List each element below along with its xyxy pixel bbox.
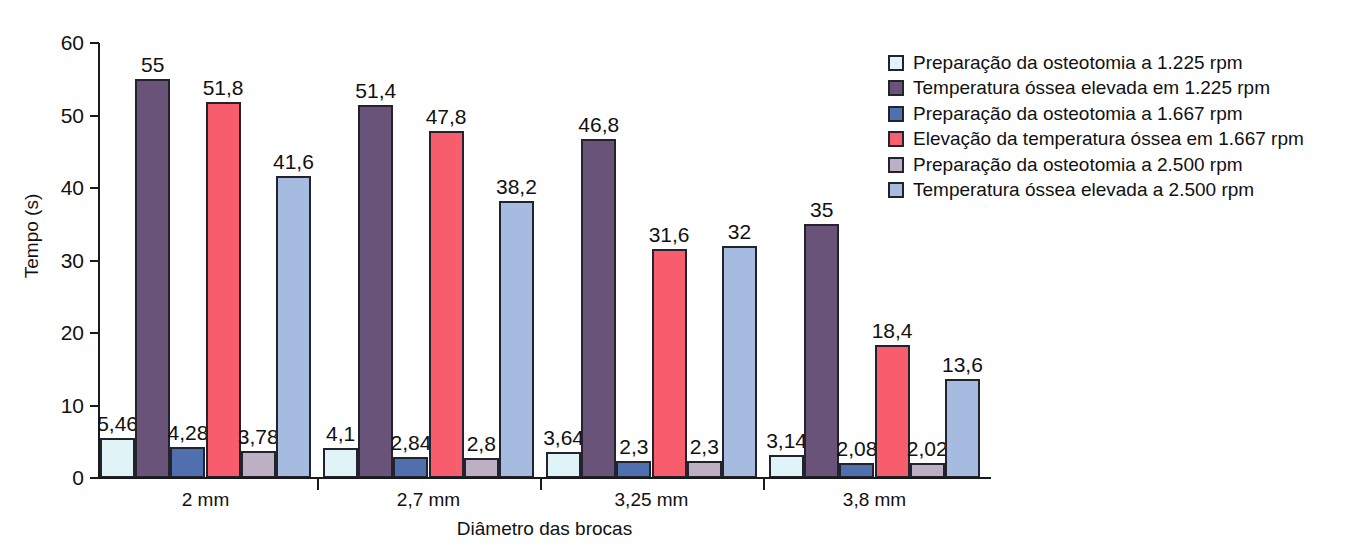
bar[interactable] xyxy=(323,448,358,478)
x-axis-category-label: 2,7 mm xyxy=(359,489,499,511)
y-axis-tick xyxy=(90,115,99,117)
y-axis-tick-label: 40 xyxy=(30,177,84,198)
bar[interactable] xyxy=(616,461,651,478)
legend-swatch-icon xyxy=(888,55,904,71)
bar[interactable] xyxy=(910,463,945,478)
bar-chart: Tempo (s) 0102030405060 5,46554,2851,83,… xyxy=(0,0,1359,546)
legend-item[interactable]: Elevação da temperatura óssea em 1.667 r… xyxy=(888,127,1304,153)
bar[interactable] xyxy=(769,455,804,478)
legend-item-label: Elevação da temperatura óssea em 1.667 r… xyxy=(913,128,1304,150)
y-axis-tick-label: 60 xyxy=(30,32,84,53)
bar[interactable] xyxy=(687,461,722,478)
legend-swatch-icon xyxy=(888,80,904,96)
legend: Preparação da osteotomia a 1.225 rpmTemp… xyxy=(888,50,1304,203)
y-axis-tick-label: 20 xyxy=(30,322,84,343)
bar[interactable] xyxy=(945,379,980,478)
y-axis-tick-label: 50 xyxy=(30,105,84,126)
x-axis-category-label: 3,25 mm xyxy=(582,489,722,511)
legend-swatch-icon xyxy=(888,157,904,173)
legend-item-label: Preparação da osteotomia a 1.667 rpm xyxy=(913,103,1243,125)
bar[interactable] xyxy=(170,447,205,478)
bar-value-label: 31,6 xyxy=(629,224,709,245)
x-axis-separator-tick xyxy=(540,479,542,490)
bar-value-label: 51,8 xyxy=(183,77,263,98)
bar-value-label: 41,6 xyxy=(253,151,333,172)
y-axis-tick xyxy=(90,260,99,262)
y-axis-tick-label: 30 xyxy=(30,250,84,271)
bar[interactable] xyxy=(581,139,616,478)
y-axis-tick xyxy=(90,187,99,189)
legend-item-label: Preparação da osteotomia a 2.500 rpm xyxy=(913,154,1243,176)
bar-value-label: 13,6 xyxy=(922,354,1002,375)
x-axis-separator-tick xyxy=(763,479,765,490)
bar[interactable] xyxy=(546,452,581,478)
bar[interactable] xyxy=(135,79,170,478)
x-axis-separator-tick xyxy=(317,479,319,490)
bar-value-label: 51,4 xyxy=(336,80,416,101)
bar-value-label: 38,2 xyxy=(476,176,556,197)
bar-value-label: 46,8 xyxy=(559,114,639,135)
bar-value-label: 32 xyxy=(699,221,779,242)
legend-item[interactable]: Preparação da osteotomia a 1.225 rpm xyxy=(888,50,1304,76)
bar[interactable] xyxy=(839,463,874,478)
bar[interactable] xyxy=(206,102,241,478)
legend-item[interactable]: Temperatura óssea elevada a 2.500 rpm xyxy=(888,178,1304,204)
legend-item[interactable]: Preparação da osteotomia a 2.500 rpm xyxy=(888,152,1304,178)
y-axis-tick xyxy=(90,42,99,44)
y-axis-tick-label: 0 xyxy=(30,467,84,488)
legend-swatch-icon xyxy=(888,131,904,147)
bar[interactable] xyxy=(464,458,499,478)
y-axis-tick xyxy=(90,405,99,407)
bar[interactable] xyxy=(429,131,464,478)
x-axis-title: Diâmetro das brocas xyxy=(98,518,991,540)
x-axis-category-label: 2 mm xyxy=(136,489,276,511)
y-axis-tick xyxy=(90,332,99,334)
bar-value-label: 55 xyxy=(113,54,193,75)
legend-item[interactable]: Temperatura óssea elevada em 1.225 rpm xyxy=(888,76,1304,102)
legend-item[interactable]: Preparação da osteotomia a 1.667 rpm xyxy=(888,101,1304,127)
bar[interactable] xyxy=(241,451,276,478)
x-axis-line xyxy=(98,477,991,479)
legend-item-label: Preparação da osteotomia a 1.225 rpm xyxy=(913,52,1243,74)
bar[interactable] xyxy=(100,438,135,478)
legend-swatch-icon xyxy=(888,182,904,198)
y-axis-tick-label: 10 xyxy=(30,395,84,416)
legend-item-label: Temperatura óssea elevada em 1.225 rpm xyxy=(913,77,1270,99)
legend-item-label: Temperatura óssea elevada a 2.500 rpm xyxy=(913,179,1254,201)
x-axis-category-label: 3,8 mm xyxy=(805,489,945,511)
bar-value-label: 47,8 xyxy=(406,106,486,127)
bar-value-label: 18,4 xyxy=(852,320,932,341)
bar-value-label: 35 xyxy=(782,199,862,220)
bar[interactable] xyxy=(358,105,393,478)
legend-swatch-icon xyxy=(888,106,904,122)
bar[interactable] xyxy=(393,457,428,478)
